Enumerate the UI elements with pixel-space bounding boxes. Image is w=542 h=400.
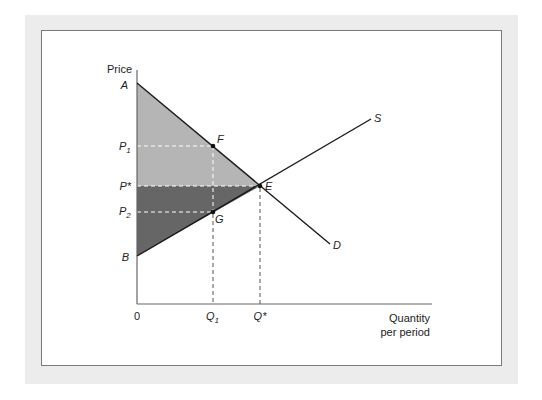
label-B: B [122, 251, 129, 263]
label-Qstar: Q* [254, 310, 268, 322]
label-A: A [120, 79, 128, 91]
label-S: S [374, 112, 382, 124]
label-Q1: Q1 [206, 310, 219, 325]
y-axis-title: Price [107, 63, 132, 75]
x-axis-title-line2: per period [380, 326, 430, 338]
point-E [258, 184, 263, 189]
label-E: E [265, 180, 273, 192]
point-F [211, 144, 216, 149]
label-P1: P1 [119, 140, 131, 155]
x-axis-title-line1: Quantity [389, 312, 430, 324]
label-G: G [215, 213, 224, 225]
label-origin: 0 [134, 310, 140, 322]
label-Pstar: P* [119, 180, 131, 192]
surplus-chart: Price A P1 P* P2 B 0 Q1 Q* Quantity per … [0, 0, 542, 400]
label-F: F [217, 133, 225, 145]
label-P2: P2 [119, 205, 131, 220]
label-D: D [333, 239, 341, 251]
